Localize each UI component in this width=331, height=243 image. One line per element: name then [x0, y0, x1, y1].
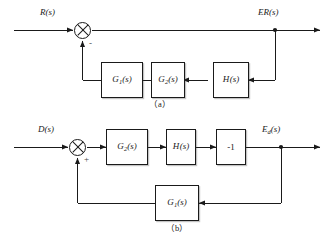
signal-label-input-b: D(s): [38, 125, 54, 134]
block-b-negative-one-label: -1: [227, 143, 235, 152]
signal-label-input-a: R(s): [40, 8, 55, 17]
block-b-g1-label: G1(s): [167, 198, 187, 209]
caption-b: （b）: [151, 224, 203, 233]
signal-label-output-b: Ed(s): [262, 125, 280, 136]
block-a-g2[interactable]: G2(s): [151, 62, 185, 98]
block-b-g2-label: G2(s): [117, 142, 137, 153]
summing-junction-b[interactable]: [69, 139, 86, 156]
block-b-h[interactable]: H(s): [166, 129, 196, 165]
figure-canvas: - R(s) ER(s) G1(s) G2(s) H(s) （a） + D(s)…: [0, 0, 331, 243]
block-a-g1[interactable]: G1(s): [101, 62, 143, 98]
block-a-g1-label: G1(s): [112, 75, 132, 86]
block-a-g2-label: G2(s): [158, 75, 178, 86]
node-b-output-tap: [279, 145, 283, 149]
node-a-output-tap: [273, 28, 277, 32]
block-a-h-label: H(s): [223, 75, 239, 86]
signal-label-output-a: ER(s): [258, 8, 279, 17]
block-b-h-label: H(s): [173, 142, 189, 153]
block-a-h[interactable]: H(s): [213, 62, 249, 98]
caption-a: （a）: [134, 100, 186, 109]
summing-sign-b: +: [84, 155, 89, 164]
block-b-g2[interactable]: G2(s): [106, 129, 148, 165]
block-b-negative-one[interactable]: -1: [216, 129, 246, 165]
summing-sign-a: -: [89, 39, 92, 48]
block-b-g1[interactable]: G1(s): [155, 185, 199, 221]
summing-junction-a[interactable]: [74, 22, 91, 39]
